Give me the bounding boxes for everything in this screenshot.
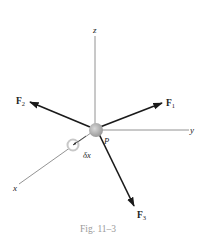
force-diagram: z y x F1 F2 F3 δx P Fig. 11–3 (0, 0, 206, 246)
displacement-label: δx (83, 150, 91, 160)
y-axis-label: y (189, 125, 194, 135)
force-f2-arrow (30, 102, 90, 127)
particle-p-icon (89, 123, 103, 137)
point-p-label: P (103, 136, 109, 146)
force-f2-label: F2 (16, 96, 25, 107)
force-f3-label: F3 (137, 210, 146, 221)
figure-caption: Fig. 11–3 (80, 224, 116, 234)
force-f1-arrow (100, 103, 162, 127)
z-axis-label: z (92, 25, 97, 35)
force-f1-label: F1 (166, 98, 175, 109)
x-axis-label: x (12, 183, 17, 193)
